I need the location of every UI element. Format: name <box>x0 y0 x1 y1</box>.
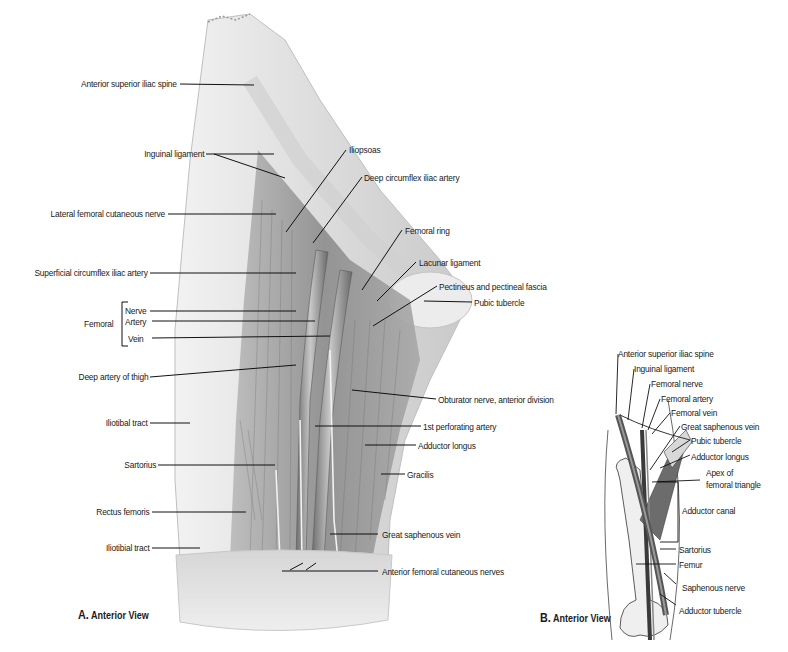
label-b-adductor-tubercle: Adductor tubercle <box>679 605 742 616</box>
label-iliotibal-tract: Iliotibal tract <box>106 417 148 428</box>
figure-b-caption: B. Anterior View <box>540 611 611 625</box>
label-femoral-vein: Vein <box>128 333 144 344</box>
label-anterior-femoral-cutaneous-nerves: Anterior femoral cutaneous nerves <box>382 566 504 577</box>
label-sartorius: Sartorius <box>124 459 156 470</box>
label-great-saphenous-vein-a: Great saphenous vein <box>382 529 460 540</box>
label-femoral-nerve: Nerve <box>125 305 146 316</box>
label-b-apex-line1: Apex of <box>706 467 733 478</box>
label-b-inguinal-ligament: Inguinal ligament <box>634 363 694 374</box>
label-b-sartorius: Sartorius <box>679 544 711 555</box>
label-femoral-group: Femoral <box>84 318 113 329</box>
label-obturator-nerve: Obturator nerve, anterior division <box>438 394 554 405</box>
figure-a-caption: A. Anterior View <box>78 608 149 622</box>
label-deep-circumflex-iliac-artery: Deep circumflex iliac artery <box>364 172 459 183</box>
caption-letter-a: A. <box>78 608 89 622</box>
label-b-great-saphenous-vein: Great saphenous vein <box>681 421 759 432</box>
label-femoral-ring: Femoral ring <box>405 225 450 236</box>
label-b-pubic-tubercle: Pubic tubercle <box>691 435 742 446</box>
label-lacunar-ligament: Lacunar ligament <box>419 257 480 268</box>
label-anterior-superior-iliac-spine: Anterior superior iliac spine <box>81 78 177 89</box>
label-b-femoral-nerve: Femoral nerve <box>651 378 703 389</box>
label-gracilis: Gracilis <box>407 469 433 480</box>
label-b-femoral-vein: Femoral vein <box>671 407 717 418</box>
thigh-cuff <box>176 550 392 631</box>
caption-letter-b: B. <box>540 611 551 625</box>
label-iliotibial-tract: Iliotibial tract <box>106 542 150 553</box>
label-rectus-femoris: Rectus femoris <box>97 506 150 517</box>
label-b-femur: Femur <box>679 559 702 570</box>
label-1st-perforating-artery: 1st perforating artery <box>423 421 496 432</box>
label-b-asis: Anterior superior iliac spine <box>618 348 714 359</box>
caption-text-b: Anterior View <box>553 613 611 624</box>
femur-schematic <box>605 400 692 640</box>
label-lateral-femoral-cutaneous-nerve: Lateral femoral cutaneous nerve <box>51 208 165 219</box>
label-femoral-artery: Artery <box>125 316 146 327</box>
label-b-adductor-longus: Adductor longus <box>691 451 749 462</box>
label-pubic-tubercle-a: Pubic tubercle <box>474 297 525 308</box>
label-b-femoral-artery: Femoral artery <box>661 393 713 404</box>
label-adductor-longus-a: Adductor longus <box>418 440 476 451</box>
label-inguinal-ligament: Inguinal ligament <box>144 148 204 159</box>
label-pectineus: Pectineus and pectineal fascia <box>439 281 547 292</box>
label-b-saphenous-nerve: Saphenous nerve <box>682 582 745 593</box>
thigh-anterior-illustration <box>0 0 788 652</box>
label-b-apex-line2: femoral triangle <box>706 479 761 490</box>
label-deep-artery-of-thigh: Deep artery of thigh <box>78 371 148 382</box>
label-superficial-circumflex-iliac-artery: Superficial circumflex iliac artery <box>35 267 148 278</box>
label-iliopsoas: Iliopsoas <box>349 144 380 155</box>
label-b-adductor-canal: Adductor canal <box>682 505 735 516</box>
caption-text-a: Anterior View <box>91 610 149 621</box>
